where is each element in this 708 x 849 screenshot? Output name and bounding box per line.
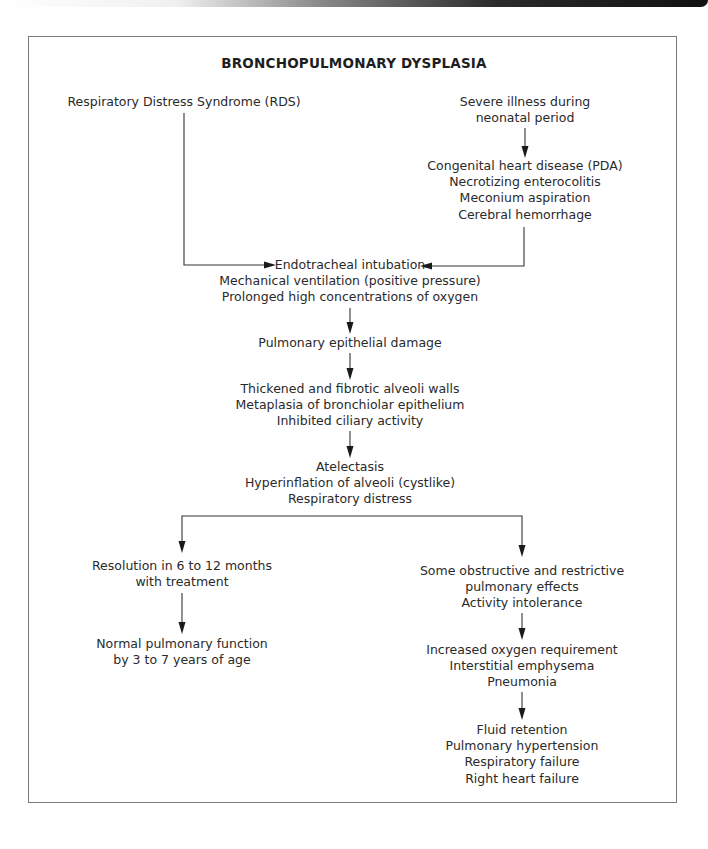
node-line: Respiratory failure <box>446 754 599 770</box>
node-line: Activity intolerance <box>420 595 624 611</box>
node-line: Hyperinflation of alveoli (cystlike) <box>245 475 455 491</box>
node-line: Increased oxygen requirement <box>426 642 618 658</box>
node-interventions: Endotracheal intubation Mechanical venti… <box>219 257 481 306</box>
node-line: with treatment <box>92 574 272 590</box>
node-oxygen-requirement: Increased oxygen requirement Interstitia… <box>426 642 618 691</box>
node-obstructive: Some obstructive and restrictive pulmona… <box>420 563 624 612</box>
node-outcomes: Fluid retention Pulmonary hypertension R… <box>446 722 599 787</box>
node-normal-function: Normal pulmonary function by 3 to 7 year… <box>96 636 268 668</box>
node-line: Pulmonary epithelial damage <box>258 335 441 351</box>
node-line: Atelectasis <box>245 459 455 475</box>
node-line: Severe illness during <box>460 94 591 110</box>
node-line: Inhibited ciliary activity <box>236 413 465 429</box>
node-line: pulmonary effects <box>420 579 624 595</box>
node-line: Resolution in 6 to 12 months <box>92 558 272 574</box>
node-line: Endotracheal intubation <box>219 257 481 273</box>
node-line: Respiratory distress <box>245 491 455 507</box>
diagram-title: BRONCHOPULMONARY DYSPLASIA <box>0 55 708 71</box>
node-conditions: Congenital heart disease (PDA) Necrotizi… <box>427 158 622 223</box>
node-line: Cerebral hemorrhage <box>427 207 622 223</box>
node-epithelial-damage: Pulmonary epithelial damage <box>258 335 441 351</box>
node-line: Some obstructive and restrictive <box>420 563 624 579</box>
node-rds: Respiratory Distress Syndrome (RDS) <box>67 94 300 110</box>
page-header-bar <box>0 0 708 7</box>
node-line: neonatal period <box>460 110 591 126</box>
node-line: Interstitial emphysema <box>426 658 618 674</box>
node-line: Pulmonary hypertension <box>446 738 599 754</box>
node-line: Respiratory Distress Syndrome (RDS) <box>67 94 300 110</box>
node-line: Necrotizing enterocolitis <box>427 174 622 190</box>
node-line: by 3 to 7 years of age <box>96 652 268 668</box>
node-line: Metaplasia of bronchiolar epithelium <box>236 397 465 413</box>
node-atelectasis: Atelectasis Hyperinflation of alveoli (c… <box>245 459 455 508</box>
node-line: Thickened and fibrotic alveoli walls <box>236 381 465 397</box>
node-line: Right heart failure <box>446 771 599 787</box>
node-severe-illness: Severe illness during neonatal period <box>460 94 591 126</box>
node-line: Congenital heart disease (PDA) <box>427 158 622 174</box>
node-line: Normal pulmonary function <box>96 636 268 652</box>
node-line: Meconium aspiration <box>427 190 622 206</box>
node-line: Pneumonia <box>426 674 618 690</box>
node-line: Prolonged high concentrations of oxygen <box>219 289 481 305</box>
node-line: Fluid retention <box>446 722 599 738</box>
node-resolution: Resolution in 6 to 12 months with treatm… <box>92 558 272 590</box>
node-alveoli-changes: Thickened and fibrotic alveoli walls Met… <box>236 381 465 430</box>
node-line: Mechanical ventilation (positive pressur… <box>219 273 481 289</box>
